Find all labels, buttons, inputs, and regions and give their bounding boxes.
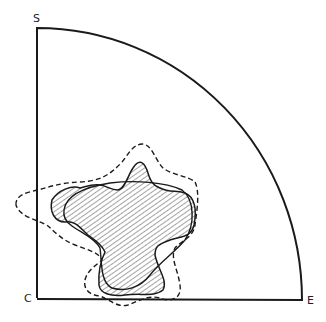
diagram-canvas — [0, 0, 326, 322]
label-s: S — [33, 12, 40, 25]
label-e: E — [307, 294, 314, 307]
label-c: C — [24, 292, 32, 305]
quadrant-outline — [37, 28, 302, 300]
